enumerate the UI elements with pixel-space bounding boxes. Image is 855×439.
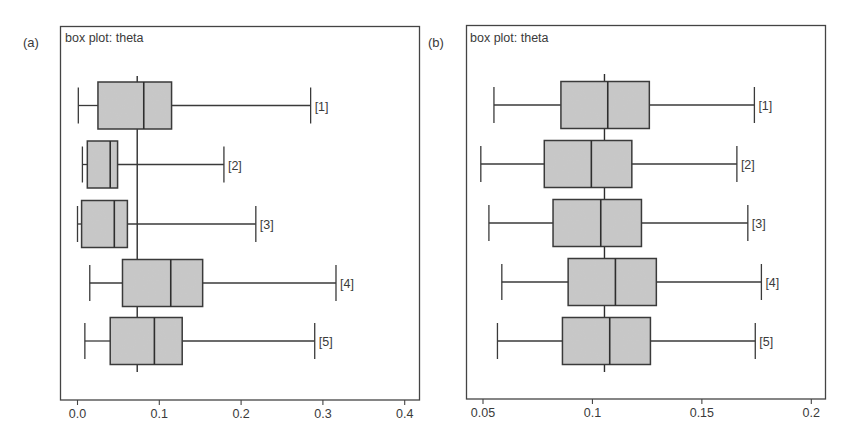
panel-b-title: box plot: theta (470, 31, 549, 45)
box-1: [1] (494, 82, 772, 129)
box-3: [3] (489, 200, 766, 247)
iqr-box (544, 141, 632, 188)
panel-a-title: box plot: theta (65, 31, 144, 45)
panel-a: (a) box plot: theta [1][2][3][4][5] 0.00… (23, 27, 420, 422)
x-tick-label: 0.1 (584, 406, 601, 420)
box-label: [2] (228, 159, 242, 173)
panel-b: (b) box plot: theta [1][2][3][4][5] 0.05… (428, 26, 826, 421)
x-tick-label: 0.3 (314, 407, 331, 421)
box-label: [4] (765, 276, 779, 290)
box-1: [1] (78, 82, 328, 129)
x-tick-label: 0.2 (232, 407, 249, 421)
chart-canvas: (a) box plot: theta [1][2][3][4][5] 0.00… (0, 0, 855, 439)
panel-a-x-axis: 0.00.10.20.30.4 (69, 400, 414, 421)
box-2: [2] (481, 141, 755, 188)
iqr-box (561, 82, 649, 129)
iqr-box (562, 318, 650, 365)
box-label: [2] (741, 158, 755, 172)
box-label: [4] (340, 277, 354, 291)
iqr-box (98, 82, 172, 129)
x-tick-label: 0.2 (803, 406, 820, 420)
iqr-box (82, 201, 128, 248)
iqr-box (553, 200, 641, 247)
box-label: [5] (319, 335, 333, 349)
panel-b-plot-area: [1][2][3][4][5] (481, 74, 779, 372)
x-tick-label: 0.4 (396, 407, 413, 421)
panel-b-label: (b) (428, 35, 444, 50)
box-3: [3] (78, 201, 274, 248)
box-plot-figure: (a) box plot: theta [1][2][3][4][5] 0.00… (0, 0, 855, 439)
x-tick-label: 0.15 (690, 406, 714, 420)
box-label: [3] (752, 217, 766, 231)
box-5: [5] (85, 318, 333, 365)
panel-a-label: (a) (23, 35, 39, 50)
x-tick-label: 0.05 (471, 406, 495, 420)
panel-a-plot-area: [1][2][3][4][5] (78, 76, 354, 372)
box-5: [5] (497, 318, 773, 365)
iqr-box (87, 141, 117, 188)
box-label: [1] (758, 99, 772, 113)
panel-b-x-axis: 0.050.10.150.2 (471, 399, 820, 420)
box-4: [4] (502, 259, 779, 306)
box-label: [5] (759, 335, 773, 349)
iqr-box (122, 260, 202, 307)
iqr-box (110, 318, 182, 365)
box-label: [3] (260, 218, 274, 232)
iqr-box (568, 259, 656, 306)
box-label: [1] (315, 100, 329, 114)
box-4: [4] (90, 260, 354, 307)
x-tick-label: 0.0 (69, 407, 86, 421)
box-2: [2] (82, 141, 241, 188)
x-tick-label: 0.1 (151, 407, 168, 421)
